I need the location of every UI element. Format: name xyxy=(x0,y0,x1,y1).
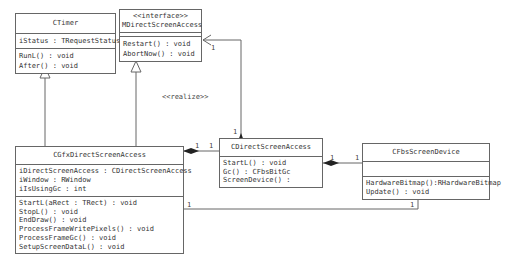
class-cdirectscreenaccess[interactable]: CDirectScreenAccess StartL() : void Gc()… xyxy=(219,138,323,188)
operation: ScreenDevice() : xyxy=(223,176,319,185)
attributes-section xyxy=(363,162,489,177)
attribute: iWindow : RWindow xyxy=(19,176,180,185)
multiplicity-label: 1 xyxy=(209,142,213,150)
class-cfbsscreendevice[interactable]: CFbsScreenDevice HardwareBitmap():RHardw… xyxy=(362,143,490,200)
attribute: iIsUsingGc : int xyxy=(19,185,180,194)
class-name: CFbsScreenDevice xyxy=(363,144,489,162)
operation: After() : void xyxy=(19,61,112,71)
operation: StartL() : void xyxy=(223,159,319,168)
operation: StopL() : void xyxy=(19,208,180,217)
class-name: MDirectScreenAccess xyxy=(122,21,199,30)
operations-section: HardwareBitmap():RHardwareBitmap Update(… xyxy=(363,177,489,199)
operation: Update() : void xyxy=(366,188,486,197)
attributes-section: iStatus : TRequestStatus xyxy=(16,34,115,49)
attribute: iStatus : TRequestStatus xyxy=(19,36,112,46)
operations-section: Restart() : void AbortNow() : void xyxy=(120,37,201,61)
class-mdirectscreenaccess[interactable]: <<interface>> MDirectScreenAccess Restar… xyxy=(119,9,202,62)
operation: Restart() : void xyxy=(123,39,198,49)
operation: AbortNow() : void xyxy=(123,49,198,59)
operation: EndDraw() : void xyxy=(19,216,180,225)
class-name: CDirectScreenAccess xyxy=(220,139,322,157)
operation: SetupScreenDataL() : void xyxy=(19,243,180,252)
operation: RunL() : void xyxy=(19,51,112,61)
operation: StartL(aRect : TRect) : void xyxy=(19,199,180,208)
class-name: CTimer xyxy=(16,14,115,34)
operations-section: RunL() : void After() : void xyxy=(16,49,115,73)
realization-mdsa-arrow xyxy=(131,61,141,72)
attribute: iDirectScreenAccess : CDirectScreenAcces… xyxy=(19,167,180,176)
multiplicity-label: 1 xyxy=(355,154,359,162)
realize-label: <<realize>> xyxy=(162,93,208,101)
class-header: <<interface>> MDirectScreenAccess xyxy=(120,10,201,33)
operations-section: StartL() : void Gc() : CFbsBitGc ScreenD… xyxy=(220,157,322,187)
operation: ProcessFrameWritePixels() : void xyxy=(19,225,180,234)
operations-section: StartL(aRect : TRect) : void StopL() : v… xyxy=(16,197,183,253)
class-ctimer[interactable]: CTimer iStatus : TRequestStatus RunL() :… xyxy=(15,13,116,74)
operation: ProcessFrameGc() : void xyxy=(19,234,180,243)
attributes-section: iDirectScreenAccess : CDirectScreenAcces… xyxy=(16,165,183,197)
class-cgfxdirectscreenaccess[interactable]: CGfxDirectScreenAccess iDirectScreenAcce… xyxy=(15,146,184,254)
multiplicity-label: 1 xyxy=(233,128,237,136)
stereotype: <<interface>> xyxy=(122,12,199,21)
operation: HardwareBitmap():RHardwareBitmap xyxy=(366,179,486,188)
multiplicity-label: 1 xyxy=(195,142,199,150)
operation: Gc() : CFbsBitGc xyxy=(223,168,319,177)
multiplicity-label: 1 xyxy=(410,201,414,209)
multiplicity-label: 1 xyxy=(211,44,215,52)
class-name: CGfxDirectScreenAccess xyxy=(16,147,183,165)
multiplicity-label: 1 xyxy=(330,154,334,162)
multiplicity-label: 1 xyxy=(187,201,191,209)
